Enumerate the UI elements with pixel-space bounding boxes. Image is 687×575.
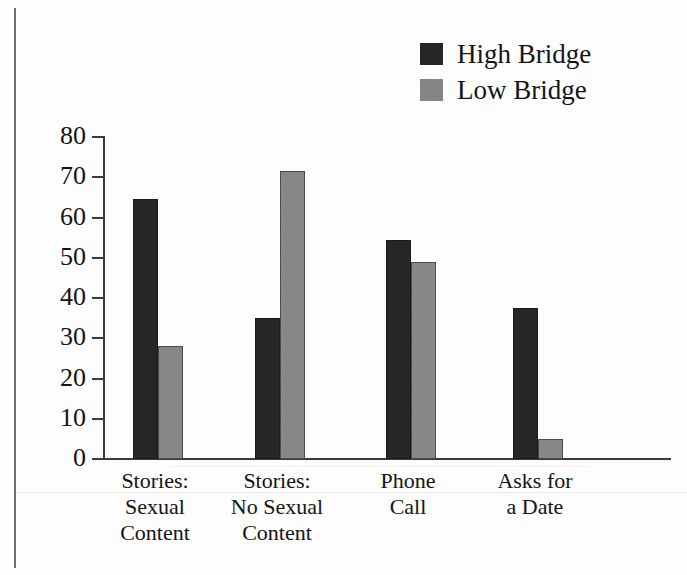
- y-axis-tick-80: [92, 136, 103, 138]
- legend-label-high-bridge: High Bridge: [457, 41, 591, 68]
- plot-area: [105, 137, 671, 459]
- bar-high-bridge-group-1: [133, 199, 158, 459]
- y-axis-tick-label-50: 50: [26, 244, 86, 270]
- y-axis-tick-40: [92, 297, 103, 299]
- bar-group-3: [386, 137, 436, 459]
- bar-high-bridge-group-2: [255, 318, 280, 459]
- bar-high-bridge-group-4: [513, 308, 538, 459]
- chart-legend: High Bridge Low Bridge: [420, 36, 591, 108]
- bar-low-bridge-group-2: [280, 171, 305, 459]
- y-axis-tick-20: [92, 378, 103, 380]
- y-axis-tick-label-70: 70: [26, 163, 86, 189]
- bar-chart-figure: High Bridge Low Bridge 80706050403020100…: [0, 0, 687, 575]
- bar-low-bridge-group-4: [538, 439, 563, 459]
- y-axis-tick-label-40: 40: [26, 284, 86, 310]
- scan-seam-secondary: [170, 466, 590, 467]
- y-axis-tick-0: [92, 458, 103, 460]
- y-axis-tick-60: [92, 217, 103, 219]
- y-axis-tick-30: [92, 337, 103, 339]
- legend-swatch-high-bridge-icon: [420, 43, 443, 65]
- legend-item-high-bridge: High Bridge: [420, 36, 591, 72]
- x-axis-label-line: a Date: [455, 494, 615, 520]
- y-axis-tick-50: [92, 257, 103, 259]
- x-axis-label-line: Content: [197, 520, 357, 546]
- legend-label-low-bridge: Low Bridge: [457, 77, 587, 104]
- bar-low-bridge-group-1: [158, 346, 183, 459]
- x-axis-label-line: Asks for: [455, 468, 615, 494]
- y-axis-tick-label-60: 60: [26, 204, 86, 230]
- y-axis-tick-70: [92, 176, 103, 178]
- bar-group-4: [513, 137, 563, 459]
- x-axis-label-4: Asks fora Date: [455, 468, 615, 520]
- page-edge-line: [14, 8, 16, 568]
- y-axis-tick-label-20: 20: [26, 365, 86, 391]
- y-axis-tick-10: [92, 418, 103, 420]
- y-axis-tick-label-10: 10: [26, 405, 86, 431]
- bar-group-1: [133, 137, 183, 459]
- legend-swatch-low-bridge-icon: [420, 79, 443, 101]
- y-axis-tick-label-80: 80: [26, 123, 86, 149]
- legend-item-low-bridge: Low Bridge: [420, 72, 591, 108]
- bar-high-bridge-group-3: [386, 240, 411, 459]
- y-axis-tick-label-30: 30: [26, 324, 86, 350]
- bar-low-bridge-group-3: [411, 262, 436, 459]
- bar-group-2: [255, 137, 305, 459]
